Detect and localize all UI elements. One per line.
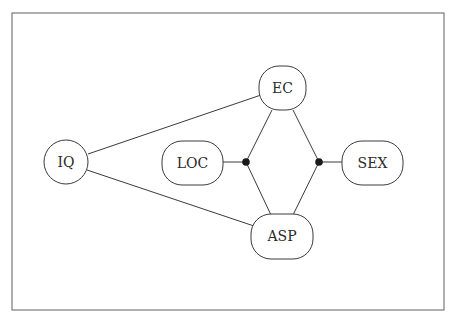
- edge-junction2-ec: [293, 110, 319, 162]
- node-iq-label: IQ: [57, 154, 74, 170]
- node-asp-label: ASP: [266, 228, 296, 244]
- node-loc: LOC: [162, 141, 223, 185]
- node-asp: ASP: [251, 214, 313, 259]
- edge-junction1-ec: [246, 110, 272, 162]
- diagram-canvas: IQ EC LOC SEX ASP: [0, 0, 455, 320]
- node-ec: EC: [259, 66, 306, 110]
- edge-junction2-asp: [293, 162, 319, 215]
- node-ec-label: EC: [272, 80, 293, 96]
- node-loc-label: LOC: [177, 155, 209, 171]
- junction-dot-left: [242, 158, 250, 166]
- node-iq: IQ: [44, 140, 88, 184]
- node-sex: SEX: [342, 141, 403, 185]
- node-sex-label: SEX: [358, 155, 388, 171]
- edge-junction1-asp: [246, 162, 271, 215]
- junction-dot-right: [315, 158, 323, 166]
